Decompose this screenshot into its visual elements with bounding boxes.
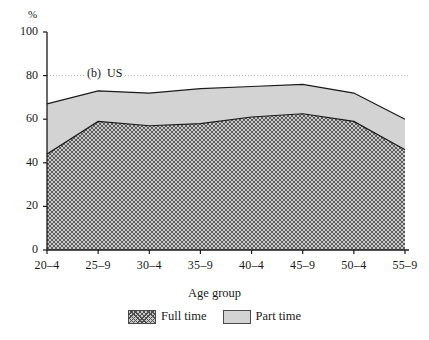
legend-item-part-time: Part time <box>223 309 301 324</box>
panel-label: (b) US <box>85 66 124 81</box>
x-tick-label-5: 45–9 <box>280 259 326 271</box>
x-tick-label-1: 25–9 <box>75 259 121 271</box>
y-tick-label-80: 80 <box>8 69 38 81</box>
x-tick-label-2: 30–4 <box>126 259 172 271</box>
x-tick-label-3: 35–9 <box>177 259 223 271</box>
x-tick-label-0: 20–4 <box>24 259 70 271</box>
chart-legend: Full time Part time <box>0 309 429 324</box>
legend-item-full-time: Full time <box>128 309 207 324</box>
y-tick-label-0: 0 <box>8 243 38 255</box>
x-tick-label-4: 40–4 <box>229 259 275 271</box>
hatched-swatch-icon <box>128 310 156 324</box>
legend-label-full-time: Full time <box>161 309 207 324</box>
x-axis-title: Age group <box>0 286 429 301</box>
full-time-area <box>47 114 405 250</box>
y-tick-label-20: 20 <box>8 199 38 211</box>
legend-label-part-time: Part time <box>256 309 301 324</box>
y-axis-unit-label: % <box>28 8 37 20</box>
x-tick-label-6: 50–4 <box>331 259 377 271</box>
y-tick-label-60: 60 <box>8 112 38 124</box>
chart-figure: % (b) US 020406080100 20–425–930–435–940… <box>0 0 429 340</box>
y-tick-label-40: 40 <box>8 156 38 168</box>
y-tick-label-100: 100 <box>8 25 38 37</box>
x-tick-label-7: 55–9 <box>382 259 428 271</box>
solid-gray-swatch-icon <box>223 310 251 324</box>
